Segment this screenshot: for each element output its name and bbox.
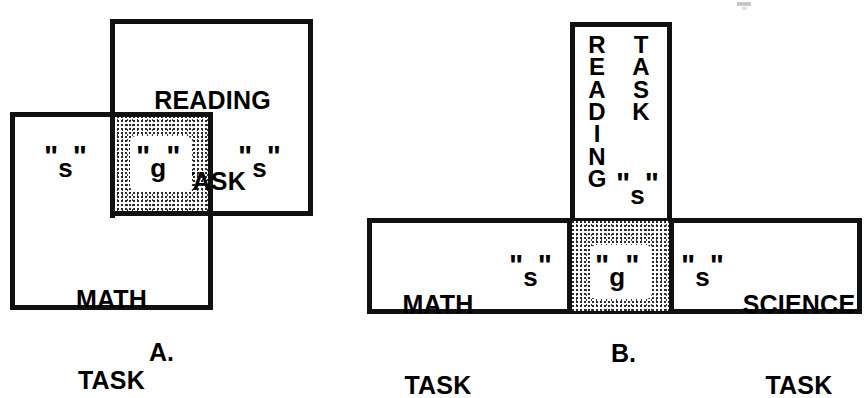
quote-open: " <box>238 139 252 172</box>
panel-a-letter: A. <box>149 340 174 365</box>
s-letter: s <box>630 180 644 210</box>
quote-close: " <box>710 248 724 281</box>
panel-b-overlap-border-left <box>567 218 572 314</box>
quote-close: " <box>538 248 552 281</box>
panel-b-task-word-vertical: T A S K <box>630 34 652 123</box>
panel-a-reading-line1: READING <box>130 87 295 114</box>
quote-open: " <box>595 248 609 281</box>
s-letter: s <box>695 262 709 292</box>
panel-b-specific-s-reading: "s" <box>616 168 659 208</box>
panel-b-science-task-label: SCIENCE TASK <box>740 237 858 398</box>
panel-b-science-line2: TASK <box>740 372 858 398</box>
panel-a-math-line1: MATH <box>30 286 193 313</box>
quote-open: " <box>509 248 523 281</box>
panel-b-overlap-border-right <box>669 218 674 314</box>
scan-speck <box>737 2 751 6</box>
g-letter: g <box>150 153 166 183</box>
scan-speck <box>742 7 747 10</box>
panel-a-math-line2: TASK <box>30 367 193 394</box>
panel-b-specific-s-left: "s" <box>509 250 552 290</box>
quote-close: " <box>166 139 180 172</box>
panel-b-letter: B. <box>611 341 636 366</box>
panel-b-math-line2: TASK <box>383 372 493 398</box>
quote-close: " <box>73 139 87 172</box>
panel-a-overlap-border-left <box>110 112 115 218</box>
quote-open: " <box>616 166 630 199</box>
panel-b-specific-s-right: "s" <box>681 250 724 290</box>
panel-a-specific-s-right: "s" <box>238 141 281 181</box>
s-letter: s <box>252 153 266 183</box>
panel-b-math-task-label: MATH TASK <box>383 237 493 398</box>
quote-close: " <box>267 139 281 172</box>
g-letter: g <box>609 262 625 292</box>
panel-b-general-g: "g" <box>595 250 639 290</box>
quote-close: " <box>645 166 659 199</box>
panel-b-math-line1: MATH <box>383 291 493 318</box>
s-letter: s <box>523 262 537 292</box>
panel-a-general-g: "g" <box>136 141 180 181</box>
panel-b-science-line1: SCIENCE <box>740 291 858 318</box>
s-letter: s <box>58 153 72 183</box>
panel-b-reading-word-vertical: R E A D I N G <box>586 34 608 190</box>
quote-open: " <box>44 139 58 172</box>
quote-close: " <box>625 248 639 281</box>
panel-a-specific-s-left: "s" <box>44 141 87 181</box>
quote-open: " <box>136 139 150 172</box>
panel-a-math-task-label: MATH TASK <box>30 232 193 398</box>
quote-open: " <box>681 248 695 281</box>
